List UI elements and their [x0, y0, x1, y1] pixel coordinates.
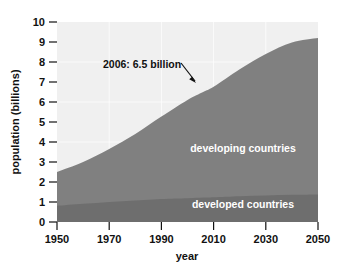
x-axis-title: year — [176, 250, 199, 262]
y-tick-label-7: 7 — [39, 76, 45, 88]
y-tick-label-5: 5 — [39, 116, 45, 128]
y-tick-label-4: 4 — [39, 136, 46, 148]
y-tick-label-6: 6 — [39, 96, 45, 108]
chart-canvas: 0 1 2 3 4 5 6 7 8 9 10 1950 1970 1990 20… — [0, 0, 341, 266]
x-tick-label-2010: 2010 — [201, 233, 225, 245]
y-axis-title: population (billions) — [9, 69, 21, 174]
y-tick-label-1: 1 — [39, 196, 45, 208]
y-tick-label-10: 10 — [33, 16, 45, 28]
x-tick-label-1970: 1970 — [97, 233, 121, 245]
series-label-developing: developing countries — [190, 142, 296, 154]
x-tick-label-1950: 1950 — [45, 233, 69, 245]
series-label-developed: developed countries — [192, 198, 294, 210]
x-axis: 1950 1970 1990 2010 2030 2050 — [45, 222, 330, 245]
x-tick-label-2030: 2030 — [254, 233, 278, 245]
annotation-2006-label: 2006: 6.5 billion — [103, 58, 181, 70]
x-tick-label-2050: 2050 — [306, 233, 330, 245]
y-tick-label-2: 2 — [39, 176, 45, 188]
population-chart-figure: 0 1 2 3 4 5 6 7 8 9 10 1950 1970 1990 20… — [0, 0, 341, 266]
y-axis: 0 1 2 3 4 5 6 7 8 9 10 — [33, 16, 57, 228]
y-tick-label-3: 3 — [39, 156, 45, 168]
y-tick-label-8: 8 — [39, 56, 45, 68]
x-tick-label-1990: 1990 — [149, 233, 173, 245]
y-tick-label-0: 0 — [39, 216, 45, 228]
y-tick-label-9: 9 — [39, 36, 45, 48]
